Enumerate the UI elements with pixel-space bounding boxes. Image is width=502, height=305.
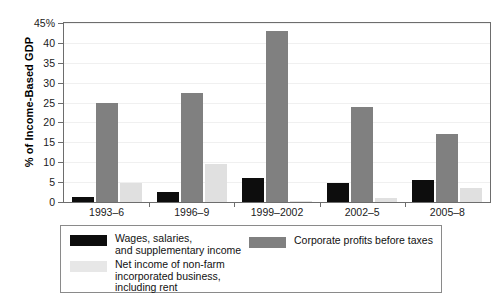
y-axis-tick-label: 20 bbox=[11, 117, 55, 127]
black-swatch-icon bbox=[70, 235, 107, 246]
bar bbox=[120, 183, 142, 202]
bar bbox=[157, 192, 179, 202]
y-axis-tick-label: 40 bbox=[11, 38, 55, 48]
x-axis-tick-label: 2002–5 bbox=[320, 207, 405, 218]
plot-area bbox=[63, 22, 491, 203]
x-axis-tick-label: 2005–8 bbox=[405, 207, 490, 218]
y-axis-tick-label: 5 bbox=[11, 177, 55, 187]
legend-entry-net-income: Net income of non-farm incorporated busi… bbox=[70, 259, 225, 294]
x-axis-tick-label: 1996–9 bbox=[149, 207, 234, 218]
bar bbox=[351, 107, 373, 202]
bar bbox=[436, 134, 458, 202]
bar bbox=[375, 198, 397, 202]
legend-label-corporate-profits: Corporate profits before taxes bbox=[294, 235, 433, 247]
y-axis-tick-label: 15 bbox=[11, 137, 55, 147]
legend-entry-corporate-profits: Corporate profits before taxes bbox=[249, 235, 433, 248]
y-axis-tick-label: 0 bbox=[11, 197, 55, 207]
y-axis-tick-label: 25 bbox=[11, 98, 55, 108]
light-gray-swatch-icon bbox=[70, 261, 107, 272]
legend-label-wages: Wages, salaries, and supplementary incom… bbox=[115, 233, 241, 256]
y-axis-tick-label: 30 bbox=[11, 78, 55, 88]
bar bbox=[460, 188, 482, 202]
x-axis-tick-label: 1999–2002 bbox=[234, 207, 319, 218]
bar bbox=[290, 201, 312, 202]
y-axis-tick-label: 10 bbox=[11, 157, 55, 167]
bar bbox=[96, 103, 118, 202]
bar bbox=[412, 180, 434, 202]
gray-swatch-icon bbox=[249, 237, 286, 248]
legend-label-net-income: Net income of non-farm incorporated busi… bbox=[115, 259, 225, 294]
bar bbox=[181, 93, 203, 202]
chart-legend: Wages, salaries, and supplementary incom… bbox=[60, 225, 442, 293]
gridline bbox=[64, 23, 490, 24]
bar-chart-figure: % of Income-Based GDP 051015202530354045… bbox=[0, 0, 502, 305]
x-axis-tick-label: 1993–6 bbox=[64, 207, 149, 218]
bar bbox=[242, 178, 264, 202]
bar bbox=[327, 183, 349, 202]
bar bbox=[72, 197, 94, 202]
y-axis-tick-label: 45% bbox=[11, 18, 55, 28]
legend-entry-wages: Wages, salaries, and supplementary incom… bbox=[70, 233, 241, 256]
bar bbox=[266, 31, 288, 202]
bar bbox=[205, 164, 227, 202]
y-axis-tick-label: 35 bbox=[11, 58, 55, 68]
y-axis-labels: 051015202530354045% bbox=[0, 0, 55, 305]
